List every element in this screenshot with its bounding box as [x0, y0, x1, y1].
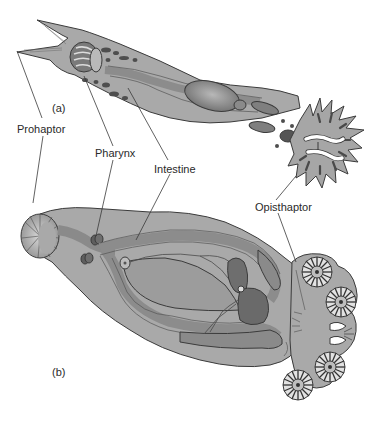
panel-label-a: (a) [52, 102, 65, 114]
label-intestine: Intestine [154, 163, 196, 175]
worm-a-opisthaptor [288, 98, 364, 188]
label-prohaptor: Prohaptor [17, 123, 66, 135]
clamp-4 [283, 370, 313, 400]
panel-label-b: (b) [52, 366, 65, 378]
label-opisthaptor: Opisthaptor [255, 201, 312, 213]
label-pharynx: Pharynx [95, 147, 136, 159]
worm-b [21, 208, 357, 400]
worm-b-prohaptor [21, 214, 59, 258]
clamp-2 [326, 287, 356, 317]
clamp-3 [315, 352, 345, 382]
worm-b-genital-complex [238, 288, 269, 325]
clamp-1 [302, 257, 332, 287]
monogenean-diagram: (a) (b) Prohaptor Pharynx Intestine Opis… [0, 0, 388, 424]
